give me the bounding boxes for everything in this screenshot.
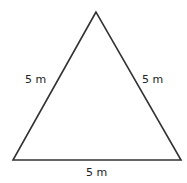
triangle-shape (0, 0, 187, 183)
left-side-label: 5 m (25, 73, 46, 86)
triangle-diagram: 5 m 5 m 5 m (0, 0, 187, 183)
right-side-label: 5 m (142, 73, 163, 86)
bottom-side-label: 5 m (86, 166, 107, 179)
